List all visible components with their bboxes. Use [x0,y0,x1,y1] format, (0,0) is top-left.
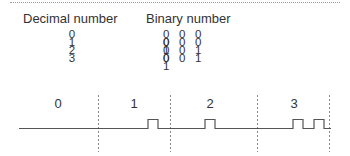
pulse-waveform [0,0,350,156]
signal-trace [19,120,331,129]
slot-dividers [99,95,330,152]
